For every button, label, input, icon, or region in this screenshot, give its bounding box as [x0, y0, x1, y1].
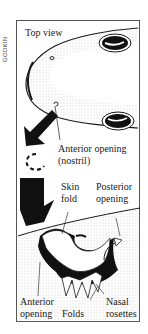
label-rosettes: rosettes — [106, 309, 137, 319]
fish-nostril-illustration — [0, 0, 148, 334]
label-anterior-opening: Anterior opening — [58, 144, 127, 154]
label-fold: fold — [61, 194, 77, 204]
label-top-view: Top view — [25, 28, 62, 38]
arrow-small-icon — [24, 110, 58, 146]
nostril-ring — [27, 154, 44, 170]
label-nostril: (nostril) — [58, 156, 90, 166]
label-folds: Folds — [62, 309, 84, 319]
label-opening: opening — [96, 194, 128, 204]
label-skin: Skin — [61, 182, 79, 192]
fish-head-top-view — [26, 28, 138, 130]
label-opening-bottom: opening — [20, 309, 52, 319]
label-anterior-bottom: Anterior — [20, 297, 54, 307]
label-posterior: Posterior — [96, 182, 132, 192]
arrow-large-icon — [20, 178, 54, 226]
label-nasal: Nasal — [106, 297, 129, 307]
